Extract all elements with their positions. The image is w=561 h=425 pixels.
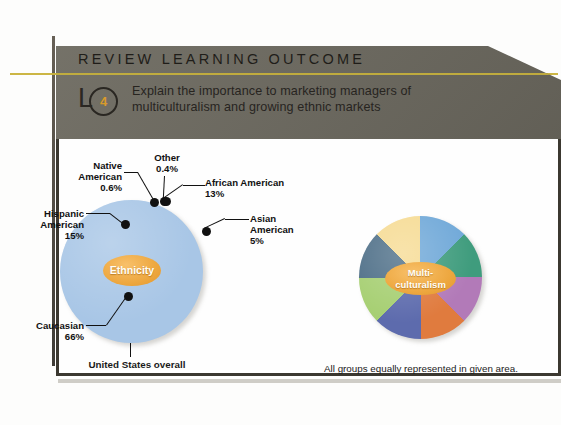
badge-number: 4: [100, 94, 107, 109]
leader-african-h: [183, 185, 205, 186]
page-left-rule: [52, 36, 55, 366]
dot-asian: [202, 227, 211, 236]
leader-hispanic-h: [86, 213, 110, 214]
page-title: REVIEW LEARNING OUTCOME: [78, 51, 365, 67]
review-learning-outcome-header: REVIEW LEARNING OUTCOME L 4 Explain the …: [56, 46, 561, 139]
callout-other: Other 0.4%: [140, 152, 194, 174]
leader-caucasian-h: [86, 325, 106, 326]
dot-native: [150, 198, 159, 207]
outcome-line-1: Explain the importance to marketing mana…: [132, 84, 411, 100]
dot-african: [162, 197, 171, 206]
callout-hispanic-american: Hispanic American 15%: [22, 208, 84, 241]
header-divider-rule: [56, 73, 561, 75]
badge-circle-icon: 4: [89, 87, 118, 116]
dot-hispanic: [121, 220, 130, 229]
figure-page: REVIEW LEARNING OUTCOME L 4 Explain the …: [0, 0, 561, 425]
caption-us-overall: United States overall: [83, 359, 191, 370]
callout-caucasian: Caucasian 66%: [22, 320, 84, 342]
callout-asian-american: Asian American 5%: [250, 213, 312, 246]
learning-outcome-badge: L 4: [78, 84, 124, 118]
caption-equal-representation: All groups equally represented in given …: [292, 363, 550, 374]
multiculturalism-hub-label: Multi- culturalism: [385, 262, 456, 295]
ethnicity-hub-label: Ethnicity: [103, 255, 161, 286]
learning-outcome-text: Explain the importance to marketing mana…: [132, 84, 411, 115]
leader-us-overall: [130, 343, 131, 357]
figure-panel-shadow: [58, 379, 561, 383]
dot-caucasian: [124, 292, 133, 301]
callout-native-american: Native American 0.6%: [56, 160, 122, 193]
callout-african-american: African American 13%: [205, 177, 303, 199]
outcome-line-2: multiculturalism and growing ethnic mark…: [132, 100, 411, 116]
leader-asian-h: [225, 219, 249, 220]
